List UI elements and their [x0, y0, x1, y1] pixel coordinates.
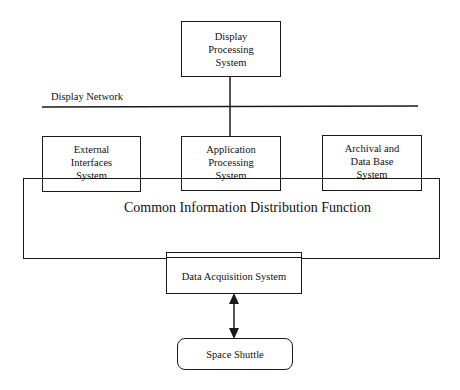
space-shuttle-box: Space Shuttle [177, 338, 293, 370]
external-interfaces-system-label: External Interfaces System [71, 143, 112, 182]
external-interfaces-system-box: External Interfaces System [42, 136, 141, 192]
display-processing-system-label: Display Processing System [208, 30, 254, 69]
application-processing-system-box: Application Processing System [181, 136, 281, 191]
space-shuttle-label: Space Shuttle [206, 348, 263, 361]
common-information-distribution-label: Common Information Distribution Function [124, 200, 371, 216]
data-acquisition-system-label: Data Acquisition System [182, 270, 286, 283]
display-processing-system-box: Display Processing System [181, 21, 281, 77]
archival-database-system-box: Archival and Data Base System [322, 135, 422, 191]
common-box-bottom-edge [166, 257, 302, 258]
display-network-bus [42, 106, 418, 107]
data-acquisition-system-box: Data Acquisition System [166, 252, 302, 294]
archival-database-system-label: Archival and Data Base System [345, 142, 400, 181]
display-network-label: Display Network [51, 91, 123, 102]
application-processing-system-label: Application Processing System [206, 143, 256, 182]
